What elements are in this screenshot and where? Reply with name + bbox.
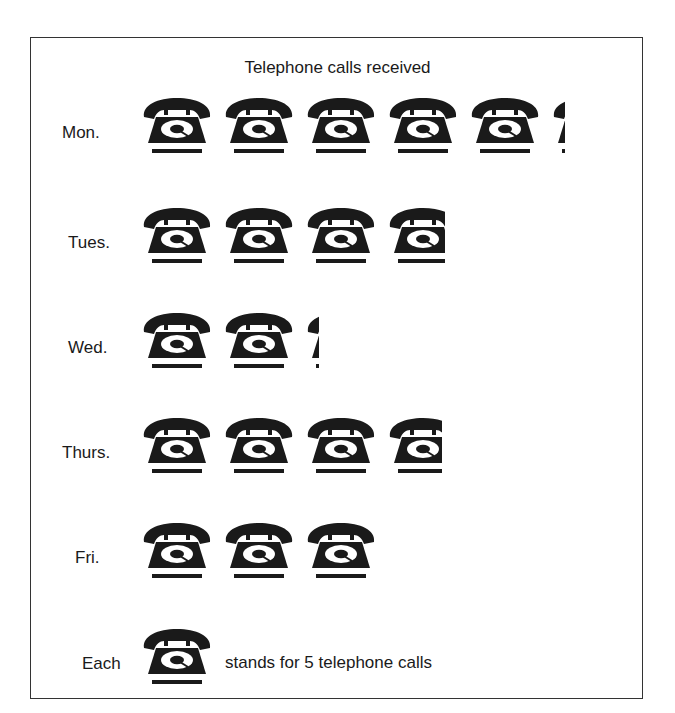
telephone-icon	[222, 415, 296, 477]
telephone-icon	[140, 310, 214, 372]
telephone-icon	[140, 95, 214, 157]
telephone-icon	[550, 95, 565, 157]
legend-suffix: stands for 5 telephone calls	[225, 653, 432, 673]
telephone-icon	[222, 310, 296, 372]
row-label: Thurs.	[62, 443, 110, 463]
icon-strip	[140, 95, 565, 165]
icon-strip	[140, 520, 386, 590]
row-label: Tues.	[68, 233, 110, 253]
telephone-icon	[468, 95, 542, 157]
telephone-icon	[386, 415, 442, 477]
icon-strip	[140, 415, 442, 485]
telephone-icon	[386, 205, 445, 267]
telephone-icon	[304, 415, 378, 477]
row-label: Mon.	[62, 123, 100, 143]
legend-prefix: Each	[82, 654, 121, 674]
telephone-icon	[140, 205, 214, 267]
telephone-icon	[140, 415, 214, 477]
telephone-icon	[222, 205, 296, 267]
telephone-icon	[304, 520, 378, 582]
chart-title: Telephone calls received	[0, 58, 675, 78]
telephone-icon	[222, 520, 296, 582]
icon-strip	[140, 310, 319, 380]
telephone-icon	[304, 95, 378, 157]
row-label: Fri.	[75, 548, 100, 568]
telephone-icon	[304, 205, 378, 267]
row-label: Wed.	[68, 338, 107, 358]
icon-strip	[140, 205, 445, 275]
telephone-icon	[386, 95, 460, 157]
telephone-icon	[140, 626, 214, 688]
telephone-icon	[140, 520, 214, 582]
legend: Each stands for 5 telephone calls	[0, 626, 675, 686]
telephone-icon	[304, 310, 319, 372]
telephone-icon	[222, 95, 296, 157]
